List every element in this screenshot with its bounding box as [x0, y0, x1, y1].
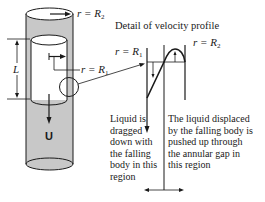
annotation-dragged-down: Liquid is dragged down with the falling … — [110, 113, 157, 182]
detail-title: Detail of velocity profile — [115, 20, 219, 31]
outer-radius-label: r = R2 — [77, 7, 104, 21]
length-label: L — [13, 63, 19, 75]
annotation-pushed-up: The liquid displaced by the falling body… — [168, 113, 253, 171]
velocity-label: U — [45, 130, 53, 142]
detail-inner-radius-label: r = R1 — [115, 45, 142, 59]
detail-outer-radius-label: r = R2 — [193, 36, 220, 50]
inner-radius-label: r = R1 — [81, 63, 108, 77]
